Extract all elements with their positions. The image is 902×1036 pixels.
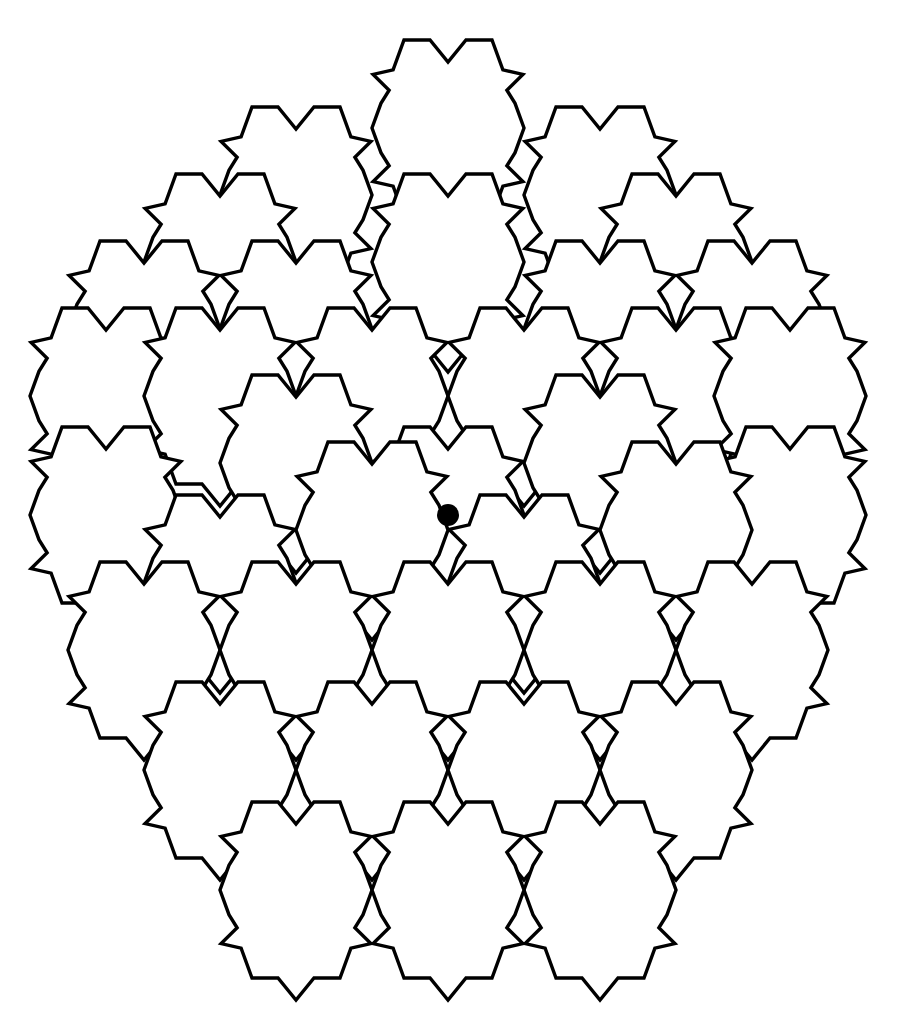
tiling-canvas [0, 0, 902, 1036]
hex-tile[interactable] [524, 802, 676, 1000]
hex-tile[interactable] [220, 802, 372, 1000]
center-dot-marker [437, 504, 459, 526]
figure-root [0, 0, 902, 1036]
hex-tile[interactable] [372, 802, 524, 1000]
